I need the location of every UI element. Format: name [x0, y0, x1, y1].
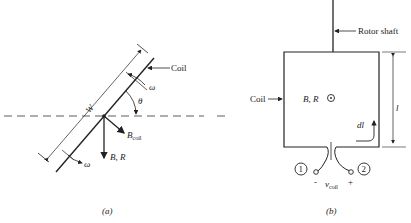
- plus-sign: +: [348, 177, 353, 187]
- b-coil-label: Bcoil: [127, 130, 142, 141]
- figure-a: Coil ω ω θ W Bcoil B, R (a): [4, 44, 204, 216]
- omega-bottom-label: ω: [84, 159, 90, 169]
- coil-label: Coil: [171, 63, 187, 73]
- minus-sign: -: [314, 177, 317, 187]
- coil-label-b: Coil: [250, 94, 266, 104]
- terminal-2-label: 2: [362, 164, 367, 174]
- caption-a: (a): [102, 206, 113, 216]
- lead-2: [335, 147, 350, 171]
- dl-label: dl: [357, 120, 365, 130]
- width-dimension-line: [48, 50, 141, 158]
- terminal-1-node: [314, 170, 319, 175]
- b-r-label-b: B, R: [303, 94, 319, 104]
- b-coil-arrow: [104, 116, 124, 133]
- figure-canvas: Coil ω ω θ W Bcoil B, R (a) Rotor sha: [0, 0, 411, 223]
- lead-1: [318, 147, 328, 171]
- b-r-label: B, R: [110, 152, 126, 162]
- field-dot: [330, 97, 332, 99]
- width-tick-bottom: [38, 153, 49, 162]
- figure-b: Rotor shaft Coil B, R l dl 1 2 - + vcoil…: [217, 0, 406, 216]
- theta-arc: [126, 91, 136, 114]
- terminal-1-label: 1: [299, 164, 304, 174]
- rotor-shaft-label: Rotor shaft: [358, 26, 399, 36]
- width-tick-top: [137, 44, 148, 53]
- caption-b: (b): [326, 206, 337, 216]
- length-label: l: [396, 103, 399, 113]
- omega-top-label: ω: [149, 82, 155, 92]
- terminal-2-node: [349, 170, 354, 175]
- v-coil-label: vcoil: [325, 179, 338, 190]
- coil-loop: [284, 52, 379, 147]
- theta-label: θ: [138, 96, 143, 106]
